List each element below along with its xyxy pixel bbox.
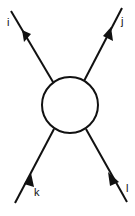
label-k: k [34, 186, 40, 198]
label-j: j [120, 15, 123, 27]
vertex-circle [42, 77, 98, 133]
leg-i [11, 11, 53, 82]
label-l: l [126, 182, 128, 194]
leg-l [86, 129, 127, 202]
label-i: i [7, 16, 9, 28]
leg-j [84, 8, 122, 81]
diagram-canvas: i j k l [0, 0, 135, 216]
arrow-icon [22, 30, 31, 42]
